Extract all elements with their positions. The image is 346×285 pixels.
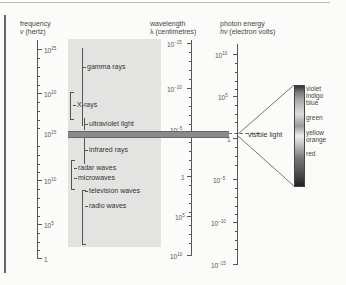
wave-label-1e5: 105 — [175, 212, 185, 221]
visible-light-band — [68, 131, 229, 138]
energy-label-1e-5: 10−5 — [213, 175, 225, 184]
energy-title: photon energy — [220, 20, 275, 28]
visible-light-label: visible light — [248, 131, 282, 139]
band-ultraviolet-light: ultraviolet light — [89, 120, 134, 128]
wavelength-axis — [191, 40, 192, 255]
freq-label-1e5: 105 — [44, 220, 54, 229]
energy-label-1e-15: 10−15 — [211, 260, 226, 269]
gamma-bracket — [82, 48, 83, 126]
energy-symbol: hν — [220, 28, 227, 35]
color-orange: orange — [306, 136, 326, 143]
color-indigo: indigo — [306, 92, 323, 99]
frequency-symbol: ν — [20, 28, 24, 35]
freq-label-1e20: 1020 — [44, 89, 56, 98]
energy-label-1e10: 1010 — [215, 50, 227, 59]
color-violet: violet — [306, 85, 321, 92]
freq-label-1e15: 1015 — [44, 129, 56, 138]
top-rule — [0, 2, 330, 3]
wave-label-1e-10: 10−10 — [167, 84, 182, 93]
wavelength-symbol: λ — [150, 28, 154, 35]
energy-label-1e-10: 10−10 — [211, 218, 226, 227]
radar-microwave-bracket — [71, 160, 75, 190]
wavelength-title: wavelength — [150, 20, 196, 28]
energy-unit: (electron volts) — [229, 28, 275, 35]
wave-label-1e10: 1010 — [170, 251, 182, 260]
band-x-rays: X-rays — [77, 101, 97, 109]
band-microwaves: microwaves — [78, 174, 115, 182]
color-yellow: yellow — [306, 129, 324, 136]
color-red: red — [306, 150, 315, 157]
band-radar-waves: radar waves — [78, 164, 116, 172]
band-television-waves: television waves — [89, 187, 140, 195]
wave-label-1e-15: 10−15 — [167, 39, 182, 48]
wave-label-1: 1 — [181, 172, 185, 181]
band-gamma-rays: gamma rays — [87, 63, 126, 71]
color-green: green — [306, 114, 323, 121]
tv-radio-bracket — [82, 190, 86, 245]
frequency-header: frequency ν (hertz) — [20, 20, 51, 36]
frequency-unit: (hertz) — [25, 28, 45, 35]
energy-header: photon energy hν (electron volts) — [220, 20, 275, 36]
energy-label-1e5: 105 — [218, 92, 228, 101]
frequency-axis — [37, 40, 38, 258]
visible-spectrum-bar — [294, 85, 305, 187]
band-radio-waves: radio waves — [89, 202, 126, 210]
wavelength-unit: (centimetres) — [155, 28, 196, 35]
freq-label-1: 1 — [44, 254, 48, 263]
wavelength-header: wavelength λ (centimetres) — [150, 20, 196, 36]
freq-label-1e25: 1025 — [44, 45, 56, 54]
band-infrared-rays: infrared rays — [89, 146, 128, 154]
frequency-title: frequency — [20, 20, 51, 28]
left-margin-bar — [4, 15, 6, 273]
freq-label-1e10: 1010 — [44, 176, 56, 185]
color-blue: blue — [306, 99, 318, 106]
xray-bracket — [70, 92, 74, 120]
infrared-bracket — [84, 138, 85, 164]
